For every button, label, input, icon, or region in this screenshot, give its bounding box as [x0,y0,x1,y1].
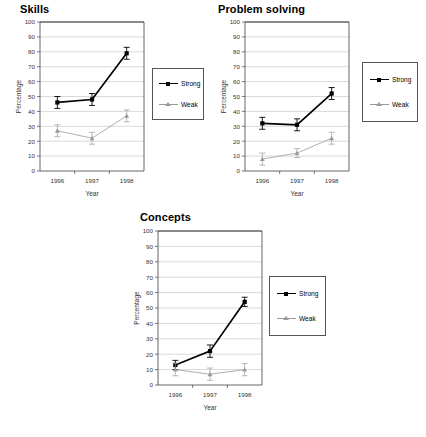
svg-text:100: 100 [25,18,36,25]
legend-item-strong: Strong [159,80,200,87]
square-marker-icon [377,78,381,82]
legend-line-weak [159,104,178,105]
svg-text:1998: 1998 [120,177,134,184]
svg-text:0: 0 [150,381,154,388]
svg-text:30: 30 [233,123,240,130]
triangle-marker-icon [165,102,171,106]
svg-text:90: 90 [233,33,240,40]
svg-text:70: 70 [146,274,153,281]
chart-title-skills: Skills [20,3,49,15]
legend-item-strong: Strong [370,76,411,83]
svg-text:90: 90 [28,33,35,40]
legend-item-weak: Weak [159,101,198,108]
svg-text:1997: 1997 [85,177,99,184]
chart-panel-skills: Skills 010203040506070809010019961997199… [0,0,213,210]
svg-text:80: 80 [233,48,240,55]
square-marker-icon [284,292,288,296]
legend-label-weak: Weak [392,101,409,108]
svg-text:1997: 1997 [290,177,304,184]
svg-text:Percentage: Percentage [133,291,141,325]
legend-label-strong: Strong [392,76,411,83]
svg-text:0: 0 [32,167,36,174]
legend-line-strong [159,83,178,84]
svg-text:60: 60 [146,289,153,296]
svg-text:30: 30 [28,123,35,130]
plot-area-skills: 0102030405060708090100199619971998YearPe… [12,16,152,211]
svg-text:1997: 1997 [203,391,217,398]
legend-label-strong: Strong [181,80,200,87]
chart-panel-problem-solving: Problem solving 010203040506070809010019… [213,0,426,210]
svg-text:1998: 1998 [325,177,339,184]
chart-title-concepts: Concepts [140,211,191,223]
svg-text:100: 100 [230,18,241,25]
svg-text:40: 40 [233,108,240,115]
plot-svg-problem-solving: 0102030405060708090100199619971998YearPe… [217,16,357,211]
svg-text:70: 70 [233,63,240,70]
plot-area-problem-solving: 0102030405060708090100199619971998YearPe… [217,16,357,211]
svg-text:20: 20 [233,138,240,145]
svg-text:90: 90 [146,243,153,250]
svg-text:40: 40 [146,320,153,327]
plot-area-concepts: 0102030405060708090100199619971998YearPe… [130,225,270,425]
svg-text:1996: 1996 [255,177,269,184]
legend-label-weak: Weak [299,315,316,322]
svg-text:30: 30 [146,335,153,342]
legend-item-weak: Weak [370,101,409,108]
svg-text:20: 20 [146,351,153,358]
svg-text:0: 0 [237,167,241,174]
svg-text:Year: Year [203,404,217,411]
svg-text:50: 50 [28,93,35,100]
svg-text:10: 10 [146,366,153,373]
svg-text:Percentage: Percentage [15,79,23,113]
legend-line-strong [277,293,296,294]
svg-text:60: 60 [28,78,35,85]
plot-svg-skills: 0102030405060708090100199619971998YearPe… [12,16,152,211]
legend-concepts: Strong Weak [269,276,326,336]
legend-skills: Strong Weak [152,68,204,120]
svg-text:Percentage: Percentage [220,79,228,113]
legend-line-weak [277,318,296,319]
svg-text:20: 20 [28,138,35,145]
legend-problem-solving: Strong Weak [362,62,418,122]
legend-label-strong: Strong [299,290,318,297]
svg-text:1996: 1996 [50,177,64,184]
svg-text:80: 80 [28,48,35,55]
svg-text:60: 60 [233,78,240,85]
legend-item-strong: Strong [277,290,318,297]
svg-text:40: 40 [28,108,35,115]
chart-title-problem-solving: Problem solving [218,3,305,15]
svg-text:1998: 1998 [238,391,252,398]
plot-svg-concepts: 0102030405060708090100199619971998YearPe… [130,225,270,425]
legend-line-strong [370,79,389,80]
svg-text:Year: Year [85,190,99,197]
triangle-marker-icon [376,102,382,106]
svg-text:50: 50 [146,304,153,311]
svg-text:10: 10 [28,152,35,159]
svg-text:100: 100 [143,227,154,234]
svg-text:Year: Year [290,190,304,197]
chart-panel-concepts: Concepts 0102030405060708090100199619971… [106,208,336,437]
svg-text:50: 50 [233,93,240,100]
svg-text:1996: 1996 [168,391,182,398]
svg-text:70: 70 [28,63,35,70]
square-marker-icon [166,82,170,86]
legend-label-weak: Weak [181,101,198,108]
triangle-marker-icon [283,316,289,320]
svg-text:80: 80 [146,258,153,265]
legend-line-weak [370,104,389,105]
legend-item-weak: Weak [277,315,316,322]
svg-text:10: 10 [233,152,240,159]
